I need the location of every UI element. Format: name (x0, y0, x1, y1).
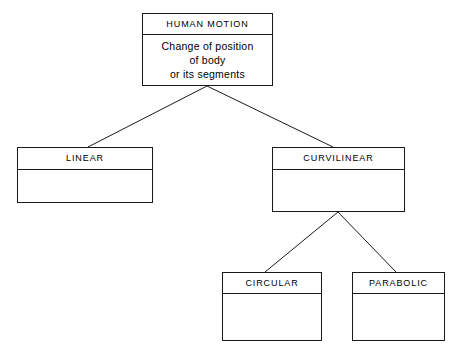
node-parabolic-title: PARABOLIC (353, 273, 444, 293)
node-circular-body (223, 293, 321, 340)
node-linear: LINEAR (17, 147, 153, 203)
node-curvilinear-body (273, 169, 404, 211)
connector-curvilinear-to-parabolic (338, 212, 396, 272)
node-human-motion-body: Change of position of body or its segmen… (143, 34, 272, 85)
node-linear-body (18, 169, 152, 202)
connector-human-motion-to-curvilinear (207, 86, 333, 147)
node-parabolic-body (353, 293, 444, 340)
node-curvilinear-title: CURVILINEAR (273, 148, 404, 169)
node-circular: CIRCULAR (222, 272, 322, 341)
motion-classification-diagram: HUMAN MOTION Change of position of body … (0, 0, 463, 350)
node-curvilinear: CURVILINEAR (272, 147, 405, 212)
connector-curvilinear-to-circular (265, 212, 338, 272)
node-human-motion-title: HUMAN MOTION (143, 14, 272, 34)
node-linear-title: LINEAR (18, 148, 152, 169)
node-circular-title: CIRCULAR (223, 273, 321, 293)
node-human-motion: HUMAN MOTION Change of position of body … (142, 13, 273, 86)
connector-human-motion-to-linear (88, 86, 207, 147)
node-human-motion-body-text: Change of position of body or its segmen… (157, 39, 257, 81)
node-parabolic: PARABOLIC (352, 272, 445, 341)
